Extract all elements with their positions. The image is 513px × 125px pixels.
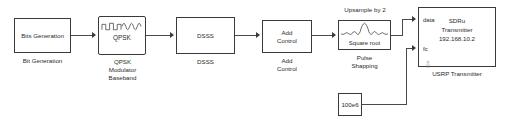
block-add-control-label: Add Control [277, 29, 297, 43]
block-add-control[interactable]: Add Control [262, 20, 312, 53]
block-pulse-shaping[interactable]: Square root [338, 20, 391, 50]
caption-add-control: Add Control [262, 57, 312, 73]
block-qpsk-modulator[interactable]: QPSK [98, 16, 146, 55]
wire-const-to-usrp-seg1 [362, 104, 407, 105]
caption-usrp-transmitter: USRP Transmitter [418, 70, 496, 78]
block-dsss[interactable]: DSSS [176, 17, 235, 54]
port-label-fc: fc [423, 46, 428, 53]
arrowhead-usrp-data-input [412, 16, 416, 22]
wire-dsss-to-add-control [235, 35, 257, 36]
block-constant-frequency[interactable]: 100e6 [338, 93, 362, 116]
caption-pulse-shaping: Pulse Shapping [336, 54, 393, 70]
caption-bits-generation: Bit Generation [6, 57, 79, 65]
arrowhead-qpsk-input [92, 32, 96, 38]
raised-cosine-pulse-icon [340, 22, 389, 39]
arrowhead-add-control-input [256, 32, 260, 38]
block-qpsk-modulator-label: QPSK [99, 34, 145, 41]
block-constant-frequency-label: 100e6 [341, 101, 358, 108]
caption-qpsk-modulator: QPSK Modulator Baseband [94, 58, 151, 83]
caption-dsss: DSSS [176, 58, 235, 66]
simulink-diagram-canvas: Bits Generation Bit Generation QPSK QPSK… [0, 0, 513, 125]
block-pulse-shaping-label: Square root [339, 40, 390, 47]
square-to-sine-waveform-icon [101, 19, 143, 32]
wire-pulse-to-usrp-seg2 [402, 19, 403, 36]
block-bits-generation[interactable]: Bits Generation [14, 18, 71, 53]
arrowhead-usrp-fc-input [412, 45, 416, 51]
label-upsample-by-2: Upsample by 2 [328, 6, 402, 13]
arrowhead-dsss-input [170, 32, 174, 38]
block-usrp-transmitter-label: SDRu Transmitter 192.168.10.2 [419, 17, 495, 44]
wire-qpsk-to-dsss [146, 35, 171, 36]
block-bits-generation-label: Bits Generation [21, 32, 64, 39]
block-usrp-transmitter[interactable]: data fc SDRu Transmitter 192.168.10.2 [418, 7, 496, 67]
arrowhead-pulse-shaping-input [332, 32, 336, 38]
wire-bits-to-qpsk [71, 35, 93, 36]
block-dsss-label: DSSS [197, 32, 214, 39]
wire-add-control-to-pulse-shaping [312, 35, 333, 36]
wire-const-to-usrp-seg2 [406, 48, 407, 105]
antenna-icon [423, 55, 433, 65]
